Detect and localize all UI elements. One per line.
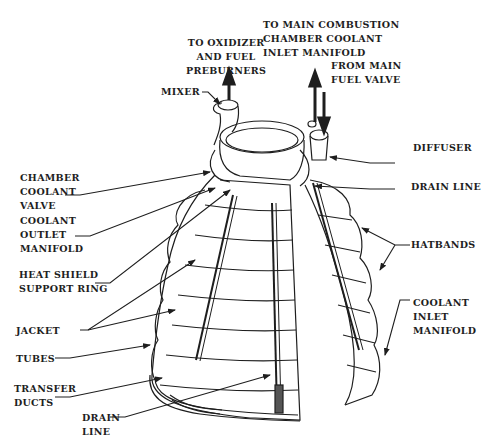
label-drain-line-bottom: DRAIN LINE bbox=[82, 411, 120, 439]
label-tubes: TUBES bbox=[16, 352, 55, 366]
label-jacket: JACKET bbox=[16, 324, 60, 338]
label-chamber-coolant-valve: CHAMBER COOLANT VALVE bbox=[20, 171, 80, 213]
label-to-main-combustion-chamber-coolant-inlet-manifold: TO MAIN COMBUSTION CHAMBER COOLANT INLET… bbox=[263, 18, 399, 60]
label-mixer: MIXER bbox=[161, 85, 200, 99]
label-coolant-outlet-manifold: COOLANT OUTLET MANIFOLD bbox=[20, 214, 83, 256]
label-diffuser: DIFFUSER bbox=[413, 141, 472, 155]
label-heat-shield-support-ring: HEAT SHIELD SUPPORT RING bbox=[19, 268, 108, 296]
chamber-left-section bbox=[152, 175, 255, 418]
label-to-oxidizer-and-fuel-preburners: TO OXIDIZER AND FUEL PREBURNERS bbox=[186, 36, 266, 78]
label-hatbands: HATBANDS bbox=[411, 238, 475, 252]
label-coolant-inlet-manifold: COOLANT INLET MANIFOLD bbox=[413, 296, 476, 338]
label-transfer-ducts: TRANSFER DUCTS bbox=[14, 382, 76, 410]
label-from-main-fuel-valve: FROM MAIN FUEL VALVE bbox=[331, 59, 401, 87]
label-drain-line-right: DRAIN LINE bbox=[411, 180, 481, 194]
chamber-right-section bbox=[305, 185, 354, 405]
